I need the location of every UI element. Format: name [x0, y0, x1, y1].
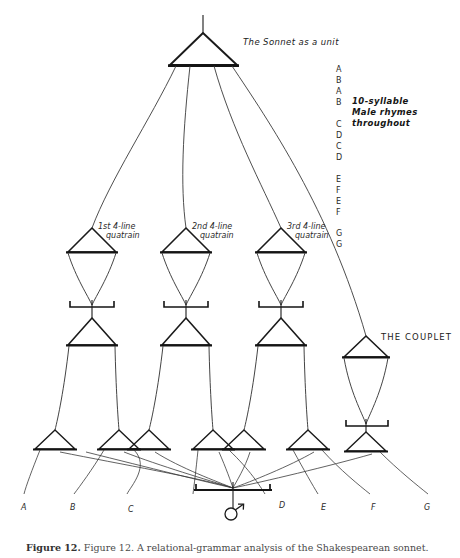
- bottom-letter-e: E: [321, 503, 327, 512]
- sonnet-tree-diagram: The Sonnet as a unit THE COUPLET 1st 4-l…: [0, 0, 460, 558]
- root-node: [168, 15, 239, 66]
- rhyme-letter-12: G: [336, 229, 342, 238]
- annotation-line-1: 10-syllable: [352, 96, 409, 106]
- hub-convergence-lines: [60, 452, 372, 488]
- root-branches: [92, 66, 366, 336]
- male-symbol-icon: [225, 504, 244, 520]
- quatrain-2-label-line2: quatrain: [200, 231, 234, 240]
- rhyme-scheme-column: A B A B C D C D E F E F G G: [336, 65, 342, 249]
- annotation-line-2: Male rhymes: [352, 107, 418, 117]
- rhyme-letter-5: D: [336, 131, 342, 140]
- quatrain-2-label-line1: 2nd 4-line: [192, 222, 232, 231]
- root-label: The Sonnet as a unit: [243, 37, 339, 47]
- quatrain-3-label-line1: 3rd 4-line: [287, 222, 325, 231]
- rhyme-letter-4: C: [336, 120, 342, 129]
- bottom-letter-b: B: [70, 503, 76, 512]
- quatrain-3-node: [222, 228, 330, 449]
- rhyme-letter-9: F: [336, 186, 341, 195]
- quatrain-2-node: [127, 228, 235, 449]
- quatrain-1-label-line1: 1st 4-line: [98, 222, 135, 231]
- rhyme-letter-1: B: [336, 76, 342, 85]
- rhyme-letter-7: D: [336, 153, 342, 162]
- figure-canvas: The Sonnet as a unit THE COUPLET 1st 4-l…: [0, 0, 460, 558]
- rhyme-letter-11: F: [336, 208, 341, 217]
- figure-caption-text: Figure 12. A relational-grammar analysis…: [84, 542, 429, 553]
- rhyme-letter-2: A: [336, 87, 342, 96]
- annotation-line-3: throughout: [352, 118, 411, 128]
- quatrain-1-node: [33, 228, 141, 449]
- rhyme-letter-3: B: [336, 98, 342, 107]
- figure-caption-prefix: Figure 12.: [26, 542, 81, 553]
- rhyme-letter-10: E: [336, 197, 341, 206]
- bottom-letter-d: D: [279, 501, 285, 510]
- bottom-letter-c: C: [128, 505, 134, 514]
- rhyme-letter-8: E: [336, 175, 341, 184]
- bottom-letter-g: G: [424, 503, 430, 512]
- rhyme-letter-13: G: [336, 240, 342, 249]
- syllable-annotation: 10-syllable Male rhymes throughout: [352, 96, 418, 128]
- quatrain-3-label-line2: quatrain: [295, 231, 329, 240]
- bottom-letter-a: A: [20, 503, 26, 512]
- hub-node: [194, 482, 272, 520]
- figure-caption: Figure 12. Figure 12. A relational-gramm…: [26, 540, 446, 556]
- rhyme-letter-6: C: [336, 142, 342, 151]
- bottom-letter-f: F: [371, 503, 376, 512]
- quatrain-1-label-line2: quatrain: [106, 231, 140, 240]
- couplet-label: THE COUPLET: [380, 332, 452, 342]
- rhyme-letter-0: A: [336, 65, 342, 74]
- couplet-node: [342, 336, 390, 451]
